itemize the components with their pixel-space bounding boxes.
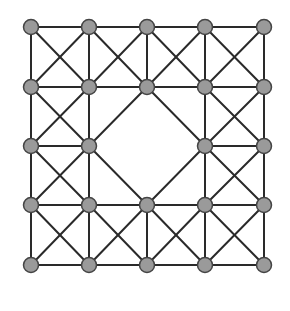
node-r1c4 [257,80,272,95]
node-r4c0 [24,258,39,273]
node-r2c1 [82,139,97,154]
node-r4c1 [82,258,97,273]
node-r1c1 [82,80,97,95]
node-r4c4 [257,258,272,273]
node-r3c1 [82,198,97,213]
node-r3c4 [257,198,272,213]
node-r2c3 [198,139,213,154]
node-r1c3 [198,80,213,95]
node-r0c0 [24,20,39,35]
grid-graph-diagram [0,0,290,311]
node-r4c2 [140,258,155,273]
node-r0c1 [82,20,97,35]
node-r1c0 [24,80,39,95]
node-r2c0 [24,139,39,154]
node-r2c4 [257,139,272,154]
node-r3c2 [140,198,155,213]
node-r0c2 [140,20,155,35]
node-r0c3 [198,20,213,35]
node-r3c0 [24,198,39,213]
node-r4c3 [198,258,213,273]
node-r1c2 [140,80,155,95]
node-r0c4 [257,20,272,35]
node-r3c3 [198,198,213,213]
